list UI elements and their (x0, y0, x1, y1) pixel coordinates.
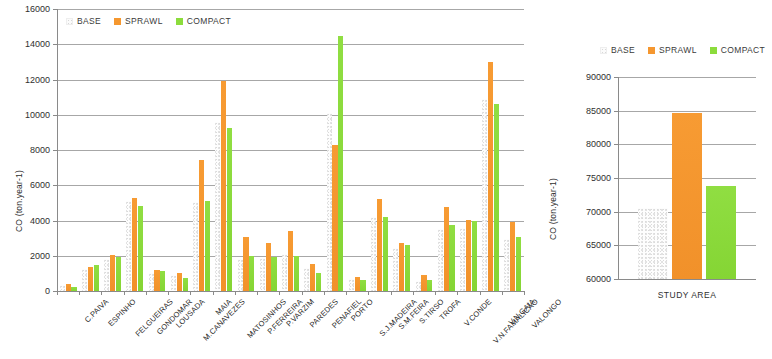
bar-group (190, 9, 212, 291)
bar-sprawl (672, 113, 702, 279)
bar-base (482, 99, 487, 291)
bar-base (304, 268, 309, 291)
y-axis-tick-label: 4000 (18, 216, 50, 226)
bar-base (638, 208, 668, 279)
y-axis-tick-label: 90000 (575, 72, 611, 82)
bar-sprawl (132, 198, 137, 291)
bar-group (124, 9, 146, 291)
bar-compact (316, 273, 321, 292)
bar-sprawl (66, 284, 71, 291)
y-axis-title: CO (ton.year-1) (548, 178, 558, 240)
legend-label: SPRAWL (659, 45, 697, 55)
bar-base (126, 201, 131, 291)
bar-compact (494, 104, 499, 291)
bar-sprawl (154, 270, 159, 291)
bar-group (257, 9, 279, 291)
bar-compact (116, 257, 121, 291)
bar-group (502, 9, 524, 291)
co-emissions-figure: BASESPRAWLCOMPACT CO (ton.year-1) 020004… (0, 0, 772, 359)
bar-base (349, 279, 354, 291)
bar-sprawl (88, 267, 93, 291)
bar-compact (405, 245, 410, 291)
bar-group (618, 77, 756, 279)
bar-base (193, 202, 198, 291)
bar-compact (472, 221, 477, 291)
plot-area: 60000650007000075000800008500090000 (618, 77, 756, 279)
bar-compact (360, 280, 365, 291)
y-axis-tick-label: 70000 (575, 207, 611, 217)
bar-sprawl (399, 243, 404, 291)
x-axis-label: V.CONDE (462, 297, 493, 328)
bar-sprawl (288, 231, 293, 291)
chart-legend: BASESPRAWLCOMPACT (600, 45, 765, 55)
bar-base (327, 113, 332, 291)
bar-compact (94, 265, 99, 291)
y-axis-tick-label: 65000 (575, 240, 611, 250)
bar-compact (516, 237, 521, 291)
bar-compact (205, 201, 210, 291)
x-axis-label: ESPINHO (107, 297, 138, 328)
bar-sprawl (110, 255, 115, 291)
bar-base (393, 248, 398, 291)
legend-swatch-base-icon (600, 47, 607, 54)
legend-label: COMPACT (721, 45, 765, 55)
bar-group (168, 9, 190, 291)
legend-item-compact: COMPACT (710, 45, 765, 55)
y-axis-tick-label: 85000 (575, 106, 611, 116)
y-axis-tick-label: 80000 (575, 139, 611, 149)
bar-group (480, 9, 502, 291)
bar-base (438, 229, 443, 291)
bar-group (302, 9, 324, 291)
x-axis-label-study-area: STUDY AREA (618, 290, 756, 300)
bar-base (171, 275, 176, 291)
y-axis-tick-label: 60000 (575, 274, 611, 284)
bar-base (460, 228, 465, 291)
bar-group (346, 9, 368, 291)
legend-item-sprawl: SPRAWL (648, 45, 697, 55)
bar-compact (138, 206, 143, 291)
bar-group (213, 9, 235, 291)
bar-compact (338, 36, 343, 291)
bar-group (146, 9, 168, 291)
bar-group (235, 9, 257, 291)
bar-group (457, 9, 479, 291)
bar-compact (249, 256, 254, 291)
bar-sprawl (488, 62, 493, 291)
bar-sprawl (466, 220, 471, 291)
bar-base (238, 259, 243, 291)
bar-sprawl (221, 81, 226, 291)
y-axis-tick-label: 6000 (18, 180, 50, 190)
bar-group (368, 9, 390, 291)
bar-compact (227, 128, 232, 291)
bar-base (215, 122, 220, 291)
bar-compact (706, 186, 736, 279)
bar-group (79, 9, 101, 291)
bar-compact (183, 278, 188, 291)
bar-sprawl (310, 264, 315, 291)
bar-sprawl (510, 222, 515, 291)
y-axis-tick-label: 12000 (18, 75, 50, 85)
bar-sprawl (377, 199, 382, 291)
bar-base (82, 269, 87, 291)
bar-group (435, 9, 457, 291)
bar-compact (294, 256, 299, 291)
legend-label: BASE (611, 45, 635, 55)
bar-base (371, 217, 376, 291)
bar-group (413, 9, 435, 291)
bar-sprawl (444, 207, 449, 291)
bar-compact (383, 217, 388, 291)
legend-swatch-compact-icon (710, 47, 717, 54)
x-axis-tickmark (524, 291, 525, 295)
bar-base (149, 273, 154, 292)
plot-area: 0200040006000800010000120001400016000 (57, 9, 524, 291)
bar-base (416, 281, 421, 291)
y-axis-tick-label: 8000 (18, 145, 50, 155)
x-axis-line (57, 291, 524, 292)
bar-base (104, 259, 109, 291)
bar-sprawl (177, 273, 182, 291)
bar-group (324, 9, 346, 291)
bar-group (391, 9, 413, 291)
bar-sprawl (199, 160, 204, 291)
y-axis-tick-label: 2000 (18, 251, 50, 261)
bar-sprawl (266, 243, 271, 291)
